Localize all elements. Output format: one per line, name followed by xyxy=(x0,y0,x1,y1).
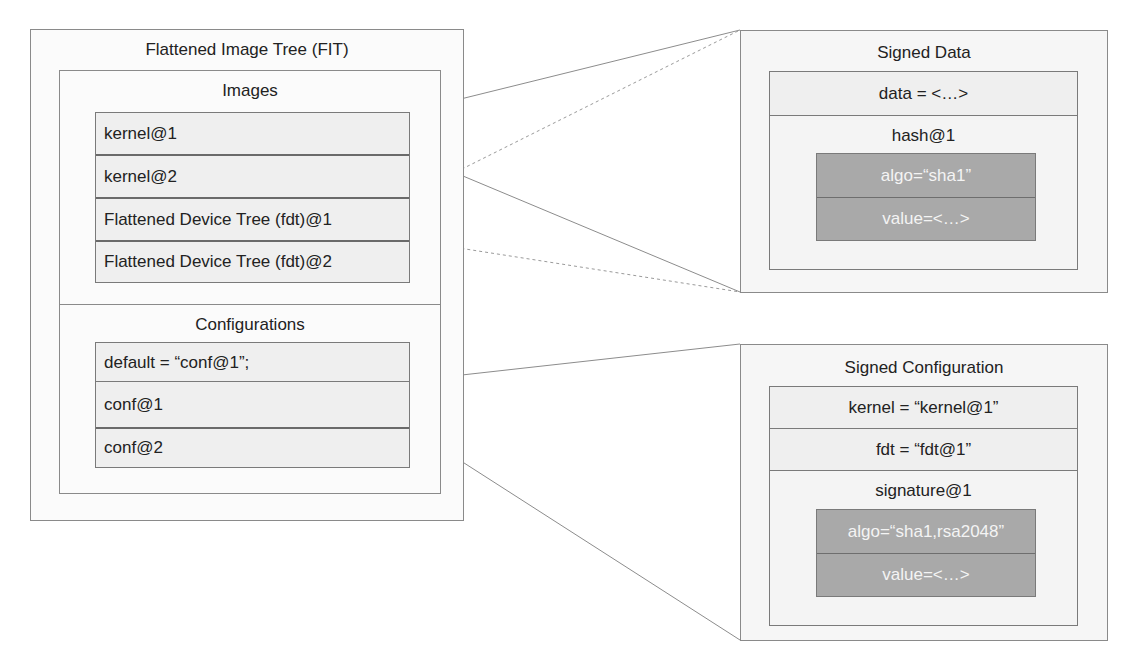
image-item-label: Flattened Device Tree (fdt)@1 xyxy=(104,210,332,230)
image-item-fdt2[interactable]: Flattened Device Tree (fdt)@2 xyxy=(96,240,409,282)
images-section: Images kernel@1 kernel@2 Flattened Devic… xyxy=(59,70,441,305)
fdt-row[interactable]: fdt = “fdt@1” xyxy=(770,428,1077,471)
hash-algo-label: algo=“sha1” xyxy=(881,166,971,186)
signature-title: signature@1 xyxy=(875,481,972,501)
signature-algo-label: algo=“sha1,rsa2048” xyxy=(848,522,1004,542)
images-list: kernel@1 kernel@2 Flattened Device Tree … xyxy=(95,112,410,283)
config-item-label: default = “conf@1”; xyxy=(104,353,249,373)
config-item-default[interactable]: default = “conf@1”; xyxy=(96,343,409,382)
signature-algo[interactable]: algo=“sha1,rsa2048” xyxy=(817,510,1035,554)
image-item-label: kernel@2 xyxy=(104,167,177,187)
fit-title: Flattened Image Tree (FIT) xyxy=(31,40,463,60)
configurations-list: default = “conf@1”; conf@1 conf@2 xyxy=(95,342,410,468)
signed-configuration-panel: Signed Configuration kernel = “kernel@1”… xyxy=(740,344,1108,641)
hash-properties: algo=“sha1” value=<…> xyxy=(816,153,1036,241)
config-item-conf2[interactable]: conf@2 xyxy=(96,427,409,467)
fit-container: Flattened Image Tree (FIT) Images kernel… xyxy=(30,29,464,521)
signature-value[interactable]: value=<…> xyxy=(817,553,1035,596)
image-item-label: Flattened Device Tree (fdt)@2 xyxy=(104,252,332,272)
hash-value[interactable]: value=<…> xyxy=(817,197,1035,240)
data-row[interactable]: data = <…> xyxy=(770,72,1077,116)
configurations-section: Configurations default = “conf@1”; conf@… xyxy=(59,304,441,494)
hash-algo[interactable]: algo=“sha1” xyxy=(817,154,1035,198)
signed-configuration-title: Signed Configuration xyxy=(741,358,1107,378)
images-title: Images xyxy=(60,81,440,101)
signed-data-panel: Signed Data data = <…> hash@1 algo=“sha1… xyxy=(740,30,1108,293)
data-row-label: data = <…> xyxy=(879,84,968,104)
image-item-label: kernel@1 xyxy=(104,124,177,144)
config-item-conf1[interactable]: conf@1 xyxy=(96,381,409,427)
fdt-row-label: fdt = “fdt@1” xyxy=(876,440,971,460)
signed-data-title: Signed Data xyxy=(741,43,1107,63)
configurations-title: Configurations xyxy=(60,315,440,335)
signed-data-inner: data = <…> hash@1 algo=“sha1” value=<…> xyxy=(769,71,1078,270)
image-item-fdt1[interactable]: Flattened Device Tree (fdt)@1 xyxy=(96,197,409,240)
kernel-row-label: kernel = “kernel@1” xyxy=(848,398,998,418)
hash-value-label: value=<…> xyxy=(882,209,969,229)
image-item-kernel2[interactable]: kernel@2 xyxy=(96,154,409,197)
config-item-label: conf@1 xyxy=(104,395,163,415)
config-item-label: conf@2 xyxy=(104,438,163,458)
hash-title: hash@1 xyxy=(892,126,956,146)
kernel-row[interactable]: kernel = “kernel@1” xyxy=(770,387,1077,429)
signature-properties: algo=“sha1,rsa2048” value=<…> xyxy=(816,509,1036,597)
signature-value-label: value=<…> xyxy=(882,565,969,585)
signed-configuration-inner: kernel = “kernel@1” fdt = “fdt@1” signat… xyxy=(769,386,1078,626)
image-item-kernel1[interactable]: kernel@1 xyxy=(96,113,409,155)
